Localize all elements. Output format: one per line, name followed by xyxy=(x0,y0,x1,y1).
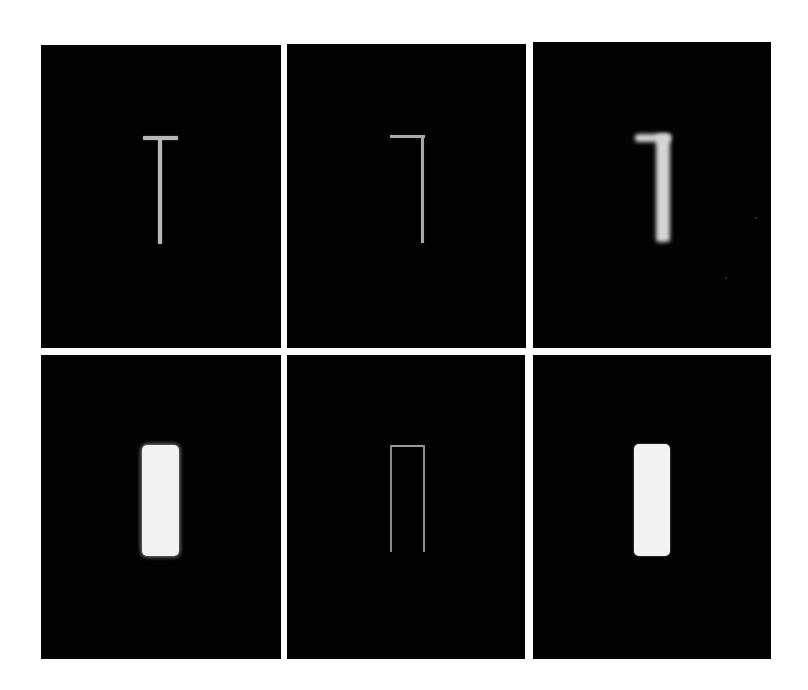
outline-right-edge xyxy=(423,445,425,552)
panel-bottom-middle xyxy=(287,355,525,659)
blurred-seven-stem xyxy=(656,134,670,242)
panel-bottom-right xyxy=(533,355,771,659)
filled-rectangle-soft xyxy=(142,445,179,556)
panel-top-right xyxy=(533,42,771,348)
panel-bottom-left xyxy=(41,355,281,659)
outline-left-edge xyxy=(390,445,392,552)
t-shape-stem xyxy=(158,138,162,244)
outline-top-edge xyxy=(390,445,425,447)
dust-speck xyxy=(725,277,727,279)
seven-shape-bar xyxy=(390,135,425,138)
filled-rectangle-sharp xyxy=(634,444,670,556)
dust-speck xyxy=(755,217,757,219)
seven-shape-stem xyxy=(421,136,424,243)
panel-top-middle xyxy=(287,44,526,348)
panel-top-left xyxy=(41,45,281,348)
